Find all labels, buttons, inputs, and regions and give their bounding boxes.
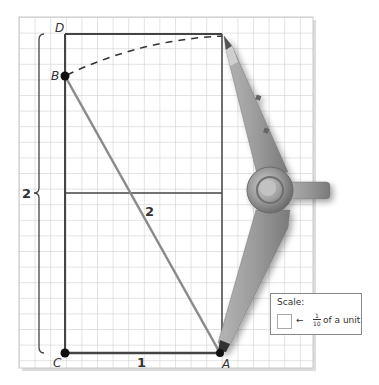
label-C: C xyxy=(53,356,62,370)
fraction-numerator: 1 xyxy=(313,312,321,320)
label-D: D xyxy=(55,21,64,35)
fraction-denominator: 10 xyxy=(313,320,321,327)
point-C xyxy=(61,349,70,358)
diagram-stage: 2 2 1 xyxy=(0,0,379,385)
point-A xyxy=(216,349,224,357)
hypotenuse-label: 2 xyxy=(145,204,154,219)
scale-unit-square xyxy=(277,314,292,329)
arrow-left-icon: ← xyxy=(296,315,304,325)
base-label: 1 xyxy=(137,355,146,370)
scale-text: of a unit xyxy=(323,315,360,325)
point-B xyxy=(61,72,70,81)
scale-legend: Scale: ← 1 10 of a unit xyxy=(270,293,362,335)
height-label: 2 xyxy=(22,186,31,201)
label-B: B xyxy=(51,69,59,83)
scale-fraction: 1 10 xyxy=(313,312,321,327)
label-A: A xyxy=(221,357,230,371)
scale-title: Scale: xyxy=(277,297,304,307)
